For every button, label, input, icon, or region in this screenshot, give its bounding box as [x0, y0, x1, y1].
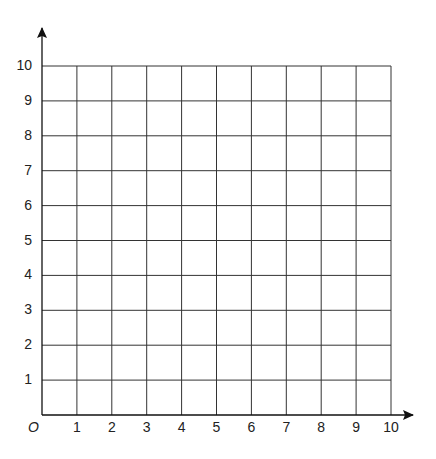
y-tick-label: 8	[4, 128, 32, 142]
x-tick-label: 3	[135, 420, 159, 434]
y-tick-label: 7	[4, 163, 32, 177]
x-tick-label: 1	[65, 420, 89, 434]
y-tick-label: 2	[4, 337, 32, 351]
y-tick-label: 10	[4, 58, 32, 72]
x-tick-label: 2	[100, 420, 124, 434]
x-tick-label: 9	[344, 420, 368, 434]
x-tick-label: 5	[205, 420, 229, 434]
y-tick-label: 5	[4, 233, 32, 247]
x-tick-label: 4	[170, 420, 194, 434]
y-tick-label: 1	[4, 372, 32, 386]
coordinate-grid	[0, 0, 436, 459]
y-tick-label: 4	[4, 267, 32, 281]
x-tick-label: 6	[239, 420, 263, 434]
y-tick-label: 9	[4, 93, 32, 107]
x-tick-label: 7	[274, 420, 298, 434]
x-tick-label: 8	[309, 420, 333, 434]
y-tick-label: 3	[4, 302, 32, 316]
origin-label: O	[28, 420, 39, 434]
x-tick-label: 10	[379, 420, 403, 434]
y-tick-label: 6	[4, 198, 32, 212]
